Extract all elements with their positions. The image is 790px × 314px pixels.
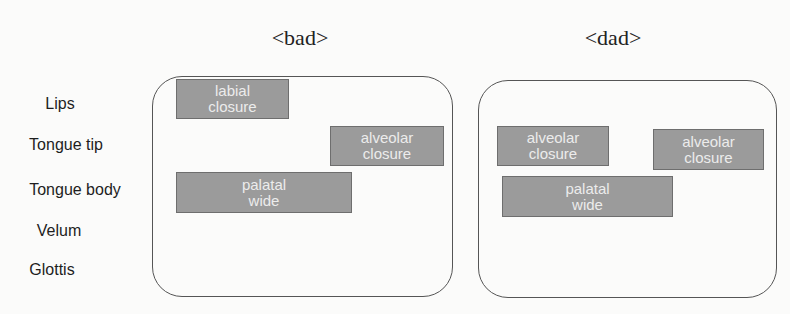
gesture-bad-palatal-wide: palatal wide [176,172,352,213]
row-label-velum: Velum [37,223,81,239]
gesture-line2: wide [572,197,603,213]
gesture-dad-palatal-wide: palatal wide [502,176,673,217]
row-label-glottis: Glottis [29,262,74,278]
gesture-line1: alveolar [527,130,580,146]
title-bad: <bad> [272,27,329,49]
gesture-bad-alveolar-closure: alveolar closure [330,126,444,166]
gesture-line2: closure [208,99,256,115]
gesture-bad-labial-closure: labial closure [176,79,289,119]
gesture-line2: wide [249,193,280,209]
gesture-line1: palatal [565,181,609,197]
gesture-line1: alveolar [361,130,414,146]
gesture-line2: closure [684,150,732,166]
gesture-dad-alveolar-closure-2: alveolar closure [653,129,764,170]
row-label-tongue-tip: Tongue tip [29,137,103,153]
gesture-line1: labial [215,83,250,99]
gesture-line1: alveolar [682,134,735,150]
row-label-tongue-body: Tongue body [29,182,121,198]
title-dad: <dad> [585,27,642,49]
gesture-line2: closure [529,146,577,162]
gesture-line2: closure [363,146,411,162]
row-label-lips: Lips [45,96,74,112]
gesture-line1: palatal [242,177,286,193]
gesture-dad-alveolar-closure-1: alveolar closure [497,126,609,166]
